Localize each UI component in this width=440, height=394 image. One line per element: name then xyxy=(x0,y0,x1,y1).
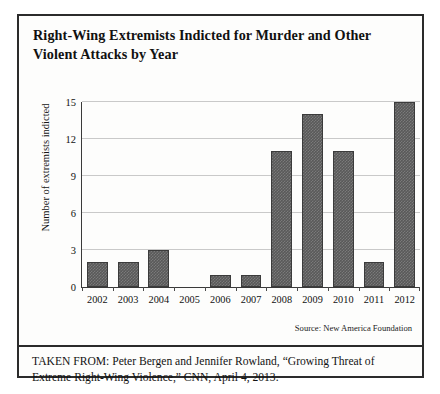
plot-area: 03691215 2002200320042005200620072008200… xyxy=(81,102,420,288)
footer-divider xyxy=(19,345,422,347)
bar xyxy=(87,262,108,287)
x-axis-tick xyxy=(419,287,420,291)
bar-slot: 2007 xyxy=(236,102,267,287)
bar xyxy=(118,262,139,287)
bar-series: 2002200320042005200620072008200920102011… xyxy=(82,102,420,287)
x-axis-tick xyxy=(82,287,83,291)
x-axis-tick xyxy=(174,287,175,291)
x-axis-tick-label: 2007 xyxy=(241,294,262,305)
x-axis-tick xyxy=(297,287,298,291)
figure-frame: Right-Wing Extremists Indicted for Murde… xyxy=(17,14,424,378)
x-axis-tick xyxy=(389,287,390,291)
bar-slot: 2006 xyxy=(205,102,236,287)
chart-area: Number of extremists indicted 03691215 2… xyxy=(19,78,424,316)
bar-slot: 2009 xyxy=(297,102,328,287)
x-axis-tick xyxy=(328,287,329,291)
bar-slot: 2002 xyxy=(82,102,113,287)
bar-slot: 2011 xyxy=(359,102,390,287)
bar xyxy=(364,262,385,287)
y-axis-tick-label: 0 xyxy=(71,282,76,293)
chart-title: Right-Wing Extremists Indicted for Murde… xyxy=(33,26,408,63)
x-axis-tick-label: 2008 xyxy=(271,294,292,305)
bar-slot: 2005 xyxy=(174,102,205,287)
bar-slot: 2012 xyxy=(389,102,420,287)
bar xyxy=(271,151,292,287)
bar xyxy=(333,151,354,287)
x-axis-tick-label: 2002 xyxy=(87,294,108,305)
source-note: Source: New America Foundation xyxy=(295,323,412,333)
x-axis-tick-label: 2005 xyxy=(179,294,200,305)
x-axis-tick-label: 2006 xyxy=(210,294,231,305)
bar xyxy=(302,114,323,287)
x-axis-tick-label: 2010 xyxy=(333,294,354,305)
y-axis-tick-label: 6 xyxy=(71,208,76,219)
bar xyxy=(210,275,231,287)
y-axis-tick-label: 12 xyxy=(66,134,77,145)
x-axis-tick xyxy=(266,287,267,291)
x-axis-tick-label: 2004 xyxy=(149,294,170,305)
x-axis-tick-label: 2003 xyxy=(118,294,139,305)
bar xyxy=(394,102,415,287)
x-axis-tick xyxy=(113,287,114,291)
x-axis-tick xyxy=(236,287,237,291)
bar xyxy=(241,275,262,287)
x-axis-tick xyxy=(205,287,206,291)
bar-slot: 2004 xyxy=(143,102,174,287)
x-axis-tick xyxy=(143,287,144,291)
y-axis-tick-label: 9 xyxy=(71,171,76,182)
y-axis-tick-label: 3 xyxy=(71,245,76,256)
y-axis-tick-label: 15 xyxy=(66,97,77,108)
x-axis-tick-label: 2009 xyxy=(302,294,323,305)
x-axis-tick-label: 2012 xyxy=(394,294,415,305)
footer-attribution: TAKEN FROM: Peter Bergen and Jennifer Ro… xyxy=(32,354,410,386)
x-axis-tick-label: 2011 xyxy=(364,294,384,305)
y-axis-title: Number of extremists indicted xyxy=(40,88,51,248)
bar-slot: 2010 xyxy=(328,102,359,287)
bar-slot: 2008 xyxy=(266,102,297,287)
bar xyxy=(148,250,169,287)
bar-slot: 2003 xyxy=(113,102,144,287)
x-axis-tick xyxy=(359,287,360,291)
